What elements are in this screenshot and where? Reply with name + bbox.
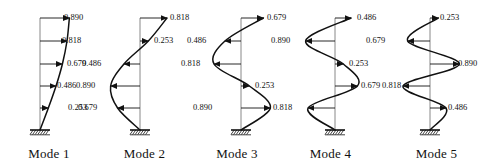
- amplitude-label: 0.818: [181, 59, 200, 68]
- amplitude-label: 0.486: [357, 13, 376, 22]
- amplitude-label: 0.253: [255, 81, 274, 90]
- mode-panel: 0.6790.8900.4860.2530.818Mode 2: [98, 0, 191, 164]
- amplitude-label: 0.486: [57, 81, 76, 90]
- amplitude-label: 0.890: [458, 59, 477, 68]
- mode-diagram: [98, 0, 191, 164]
- amplitude-label: 0.679: [78, 103, 97, 112]
- amplitude-label: 0.818: [382, 81, 401, 90]
- amplitude-label: 0.253: [154, 36, 173, 45]
- mode-caption: Mode 1: [0, 146, 98, 162]
- amplitude-label: 0.890: [193, 103, 212, 112]
- mode-panel: 0.8180.6790.2530.8900.486Mode 4: [283, 0, 378, 164]
- mode-shape-curve: [213, 18, 271, 130]
- fixed-support-icon: [420, 130, 440, 135]
- amplitude-label: 0.890: [271, 36, 290, 45]
- amplitude-label: 0.679: [366, 36, 385, 45]
- mode-caption: Mode 3: [191, 146, 283, 162]
- mode-shape-curve: [403, 18, 459, 130]
- amplitude-label: 0.818: [273, 103, 292, 112]
- amplitude-label: 0.486: [187, 36, 206, 45]
- mode-panel: 0.4860.8180.8900.6790.253Mode 5: [378, 0, 495, 164]
- fixed-support-icon: [30, 130, 50, 135]
- mode-shapes-figure: 0.2530.4860.6790.8180.890Mode 10.6790.89…: [0, 0, 495, 164]
- mode-panel: 0.8900.2530.8180.4860.679Mode 3: [191, 0, 283, 164]
- amplitude-label: 0.890: [64, 13, 83, 22]
- amplitude-label: 0.486: [448, 103, 467, 112]
- mode-shape-curve: [306, 18, 359, 130]
- amplitude-label: 0.253: [349, 59, 368, 68]
- mode-caption: Mode 4: [283, 146, 378, 162]
- fixed-support-icon: [130, 130, 150, 135]
- amplitude-label: 0.818: [62, 36, 81, 45]
- amplitude-label: 0.253: [440, 13, 459, 22]
- mode-caption: Mode 2: [98, 146, 191, 162]
- amplitude-label: 0.818: [170, 13, 189, 22]
- fixed-support-icon: [325, 130, 345, 135]
- amplitude-label: 0.890: [76, 81, 95, 90]
- amplitude-label: 0.486: [82, 59, 101, 68]
- fixed-support-icon: [231, 130, 251, 135]
- mode-caption: Mode 5: [378, 146, 495, 162]
